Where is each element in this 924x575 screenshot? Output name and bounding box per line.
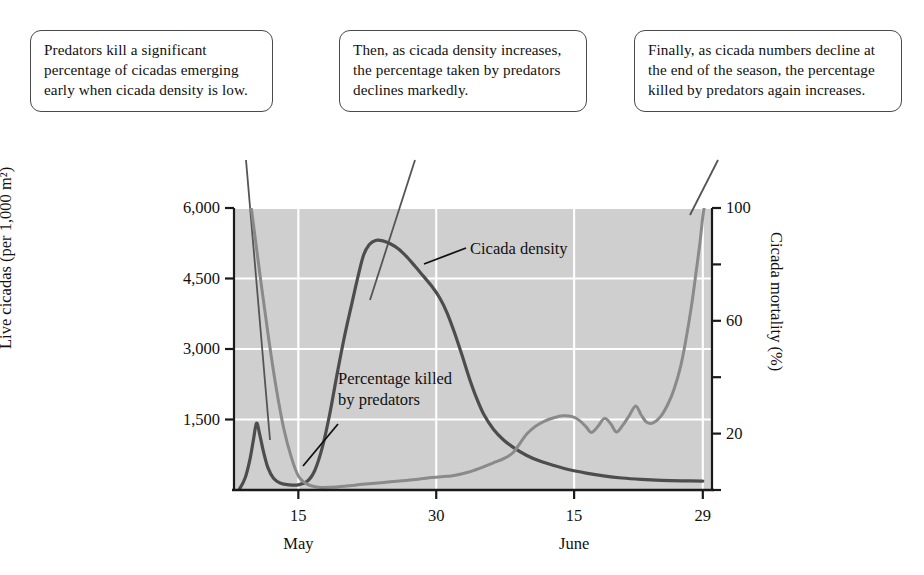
y-axis-right-tick-60: 60 [726, 311, 743, 331]
y-axis-left-tick-4500: 4,500 [183, 269, 220, 289]
y-axis-right-tick-20: 20 [726, 424, 743, 444]
series-label-cicada-density: Cicada density [470, 238, 568, 259]
x-axis-tick-1: 30 [428, 506, 445, 526]
figure-cicada-density-mortality: Predators kill a significant percentage … [0, 0, 924, 575]
y-axis-right-tick-100: 100 [726, 198, 751, 218]
x-axis-tick-2: 15 [566, 506, 583, 526]
x-axis-month-label-june: June [559, 534, 589, 554]
x-axis-month-label-may: May [283, 534, 313, 554]
callout-pointer-3 [690, 160, 718, 215]
y-axis-left-tick-3000: 3,000 [183, 339, 220, 359]
x-axis-tick-3: 29 [695, 506, 712, 526]
plot-area [0, 0, 924, 575]
series-label-percentage-killed: Percentage killed by predators [338, 368, 458, 411]
y-axis-left-tick-6000: 6,000 [183, 198, 220, 218]
y-axis-left-tick-1500: 1,500 [183, 410, 220, 430]
x-axis-tick-0: 15 [290, 506, 307, 526]
